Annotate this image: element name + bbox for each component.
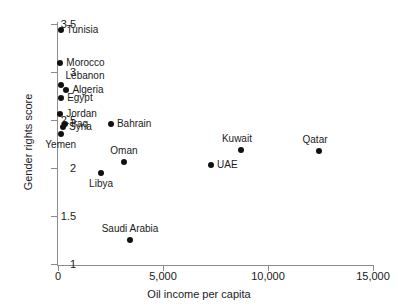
data-point-label: Egypt — [67, 93, 93, 103]
data-point — [108, 121, 114, 127]
data-point — [121, 159, 127, 165]
y-tick-mark — [51, 24, 57, 25]
scatter-plot: 11.522.533.5 05,00010,00015,000 TunisiaM… — [0, 0, 398, 308]
data-point-label: Lebanon — [66, 71, 105, 81]
data-point — [58, 95, 64, 101]
data-point-label: Bahrain — [117, 119, 151, 129]
data-point — [127, 237, 133, 243]
y-tick-mark — [51, 168, 57, 169]
data-point — [238, 147, 244, 153]
data-point — [316, 148, 322, 154]
x-tick-label: 5,000 — [149, 271, 177, 282]
x-axis-title: Oil income per capita — [0, 288, 398, 300]
y-tick-mark — [51, 120, 57, 121]
data-point-label: Qatar — [303, 135, 328, 145]
y-axis-title: Gender rights score — [22, 62, 34, 222]
data-point — [58, 131, 64, 137]
x-tick-label: 0 — [55, 271, 61, 282]
data-point — [60, 124, 66, 130]
data-point-label: Tunisia — [67, 25, 99, 35]
x-tick-label: 15,000 — [356, 271, 390, 282]
data-point-label: Kuwait — [222, 134, 252, 144]
data-point-label: Oman — [110, 146, 137, 156]
x-tick-label: 10,000 — [251, 271, 285, 282]
y-tick-mark — [51, 264, 57, 265]
data-point-label: Yemen — [45, 140, 76, 150]
data-point-label: Morocco — [66, 58, 104, 68]
data-point-label: Libya — [89, 179, 113, 189]
data-point-label: Saudi Arabia — [102, 224, 159, 234]
data-point-label: UAE — [217, 160, 238, 170]
data-point-label: Syria — [69, 122, 92, 132]
y-tick-mark — [51, 216, 57, 217]
data-point — [57, 111, 63, 117]
data-point — [57, 60, 63, 66]
data-point — [98, 170, 104, 176]
data-point — [58, 82, 64, 88]
data-point — [58, 27, 64, 33]
y-tick-label: 2 — [70, 163, 76, 174]
y-tick-mark — [51, 72, 57, 73]
data-point — [208, 162, 214, 168]
y-tick-label: 1.5 — [61, 211, 76, 222]
y-tick-label: 1 — [70, 259, 76, 270]
x-axis-line — [57, 265, 374, 266]
